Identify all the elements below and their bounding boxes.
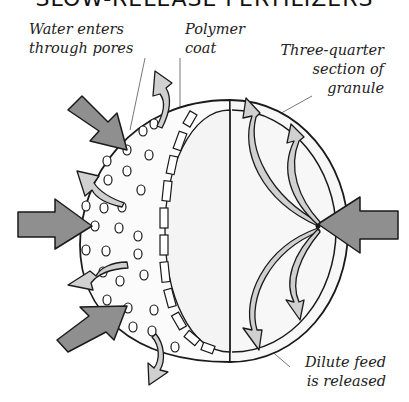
convergence-point bbox=[316, 224, 321, 229]
granule-diagram bbox=[0, 0, 409, 402]
inflow-arrow-top-left bbox=[68, 96, 127, 150]
inflow-arrow-bottom-left bbox=[57, 306, 127, 352]
